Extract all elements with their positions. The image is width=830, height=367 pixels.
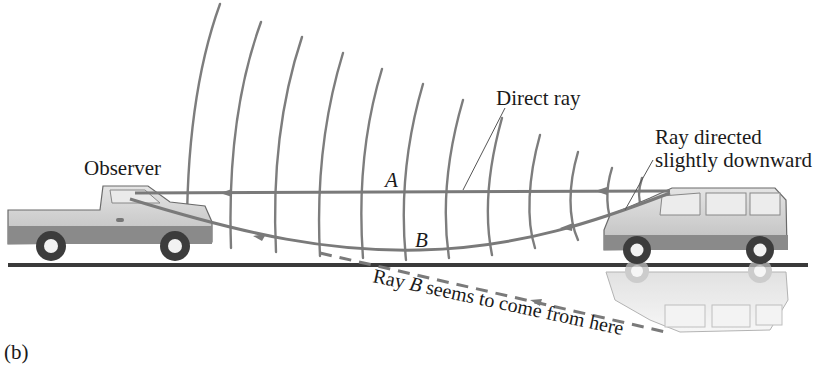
wavefront-5 xyxy=(361,69,382,258)
ray-b-source-caption: Ray B seems to come from here xyxy=(371,264,626,340)
ray-a-direct xyxy=(135,187,670,197)
wavefront-2 xyxy=(230,22,261,248)
road-surface xyxy=(8,263,808,267)
panel-label: (b) xyxy=(4,340,29,365)
diagram-canvas: Ray B seems to come from here xyxy=(0,0,830,367)
wavefront-7 xyxy=(446,100,463,258)
ray-directed-label-line1: Ray directed xyxy=(655,125,762,150)
minivan-reflection xyxy=(606,259,788,332)
ray-b-label: B xyxy=(415,228,428,253)
ray-a-label: A xyxy=(385,168,398,193)
mirage-diagram: Ray B seems to come from here Observer D… xyxy=(0,0,830,367)
pickup-truck xyxy=(8,186,212,261)
ray-directed-label-line2: slightly downward xyxy=(655,148,812,173)
wavefronts xyxy=(187,4,642,260)
minivan xyxy=(604,188,788,264)
wavefront-4 xyxy=(319,53,343,256)
direct-ray-label: Direct ray xyxy=(496,86,581,111)
wavefront-8 xyxy=(488,118,502,255)
observer-label: Observer xyxy=(84,156,161,181)
wavefront-3 xyxy=(275,37,302,252)
direct-ray-leader xyxy=(463,108,505,190)
